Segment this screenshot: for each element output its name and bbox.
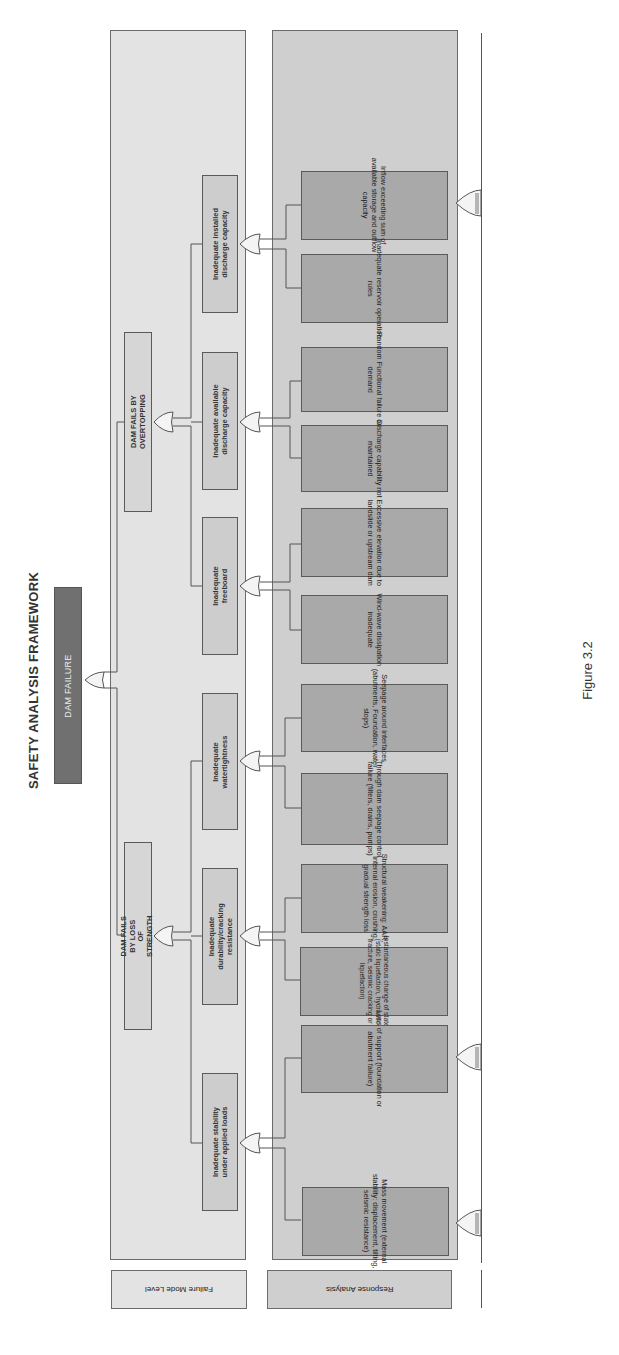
- right-boundary-line: [481, 33, 482, 1263]
- level2-box-available-discharge: Inadequate available discharge capacity: [202, 352, 238, 490]
- level1-box-loss-of-strength: DAM FAILS BY LOSS OF STRENGTH: [124, 842, 152, 1030]
- level2-box-installed-discharge: Inadequate installed discharge capacity: [202, 175, 238, 313]
- leaf-instantaneous-change: Instantaneous change of state (static li…: [300, 947, 448, 1016]
- leaf-random-functional-failure: Random Functional failure on demand: [301, 347, 448, 412]
- figure-caption: Figure 3.2: [575, 620, 599, 720]
- or-gate-icon: [456, 1044, 481, 1070]
- leaf-structural-weakening: Structural weakening: AAR, internal eros…: [301, 864, 448, 933]
- or-gate-icon: [85, 672, 104, 688]
- leaf-discharge-capability: Discharge capability not maintained: [301, 425, 448, 492]
- top-event-box: DAM FAILURE: [54, 587, 82, 784]
- leaf-excessive-elevation: Excessive elevation due to landslide or …: [301, 508, 448, 577]
- leaf-inflow-exceeding: Inflow exceeding sum of available storag…: [301, 171, 448, 240]
- or-gate-icon: [456, 190, 481, 216]
- level2-box-watertightness: Inadequate watertightness: [202, 693, 238, 830]
- leaf-loss-of-support: Loss of support (foundation or abutment …: [301, 1025, 448, 1093]
- leaf-mass-movement: Mass movement (external stability: displ…: [302, 1187, 449, 1256]
- diagram-title: SAFETY ANALYSIS FRAMEWORK: [22, 520, 46, 840]
- or-gate-icon: [456, 1210, 481, 1236]
- level2-box-freeboard: Inadequate freeboard: [202, 517, 238, 655]
- level1-box-overtopping: DAM FAILS BY OVERTOPPING: [124, 332, 152, 512]
- right-boundary-line-lower: [481, 1270, 482, 1308]
- level2-box-durability: Inadequate durability/cracking resistanc…: [202, 868, 238, 1005]
- level2-box-stability: Inadequate stability under applied loads: [202, 1073, 238, 1211]
- leaf-wind-wave: Wind-wave dissipation inadequate: [301, 595, 448, 664]
- leaf-seepage-interfaces: Seepage around interfaces (abutments, Fo…: [301, 684, 448, 752]
- failure-mode-level-label: Failure Mode Level: [111, 1270, 247, 1309]
- leaf-reservoir-rules: Inadequate reservoir operation rules: [301, 254, 448, 323]
- leaf-through-dam-seepage: Through dam seepage control failure (fil…: [301, 773, 448, 845]
- response-analysis-label: Response Analysis: [267, 1270, 452, 1309]
